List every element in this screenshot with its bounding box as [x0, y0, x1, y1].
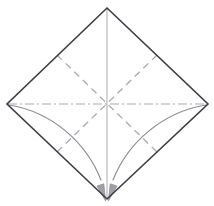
- origami-diagram-canvas: [0, 0, 214, 206]
- fold-diagram-svg: [0, 0, 214, 206]
